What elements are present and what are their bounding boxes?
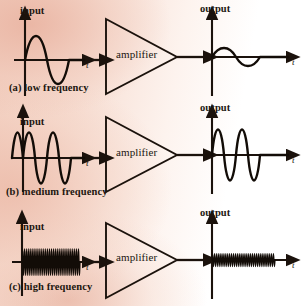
- output-waveform-c: [212, 254, 275, 267]
- panel-medium-frequency: input output amplifier t t (b) medium fr…: [0, 100, 308, 200]
- output-t-label-a: t: [292, 57, 295, 67]
- input-t-label-b: t: [86, 158, 89, 168]
- input-label-a: input: [20, 5, 44, 16]
- amplifier-label-c: amplifier: [116, 251, 157, 263]
- output-label-c: output: [200, 207, 230, 218]
- panel-low-frequency: input output amplifier t t (a) low frequ…: [0, 0, 308, 102]
- output-t-label-b: t: [292, 155, 295, 165]
- input-waveform-c: [22, 249, 80, 276]
- input-label-c: input: [20, 221, 44, 232]
- caption-a: (a) low frequency: [9, 82, 89, 93]
- panel-high-frequency: input output amplifier t t (c) high freq…: [0, 200, 308, 306]
- output-label-b: output: [200, 102, 230, 113]
- input-waveform-b-extra: [12, 133, 23, 159]
- input-t-label-a: t: [86, 60, 89, 70]
- amplifier-label-a: amplifier: [116, 48, 157, 60]
- input-t-label-c: t: [86, 262, 89, 272]
- output-label-a: output: [200, 3, 230, 14]
- output-t-label-c: t: [292, 260, 295, 270]
- amplifier-label-b: amplifier: [116, 146, 157, 158]
- caption-b: (b) medium frequency: [6, 186, 108, 197]
- caption-c: (c) high frequency: [9, 281, 92, 292]
- amplifier-frequency-figure: input output amplifier t t (a) low frequ…: [0, 0, 308, 306]
- input-label-b: input: [20, 116, 44, 127]
